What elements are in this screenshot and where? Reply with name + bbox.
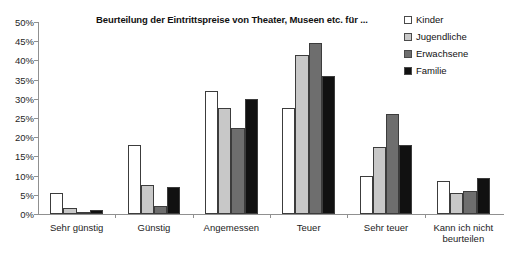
- plot-area: [38, 22, 502, 214]
- bar: [167, 187, 180, 214]
- bar: [245, 99, 258, 214]
- bar: [90, 210, 103, 214]
- bar: [141, 185, 154, 214]
- y-axis-tick-mark: [34, 214, 38, 215]
- x-axis-category-label: Günstig: [115, 222, 192, 233]
- y-axis-tick-label: 0%: [0, 209, 34, 220]
- bar: [463, 191, 476, 214]
- bar: [360, 176, 373, 214]
- x-axis-category-label: Sehr teuer: [347, 222, 424, 233]
- y-axis-tick-label: 25%: [0, 113, 34, 124]
- bar: [128, 145, 141, 214]
- x-axis-separator-tick: [270, 214, 271, 218]
- bar: [50, 193, 63, 214]
- y-axis-tick-label: 50%: [0, 17, 34, 28]
- x-axis-category-label: Angemessen: [193, 222, 270, 233]
- x-axis-line: [38, 214, 504, 215]
- x-axis-separator-tick: [193, 214, 194, 218]
- bar: [309, 43, 322, 214]
- bar: [386, 114, 399, 214]
- x-axis-separator-tick: [425, 214, 426, 218]
- y-axis-tick-label: 20%: [0, 132, 34, 143]
- bar: [282, 108, 295, 214]
- bar: [77, 212, 90, 214]
- x-axis-separator-tick: [347, 214, 348, 218]
- bar: [295, 55, 308, 214]
- y-axis-tick-label: 5%: [0, 189, 34, 200]
- bar: [231, 128, 244, 214]
- bar: [218, 108, 231, 214]
- y-axis-tick-label: 10%: [0, 170, 34, 181]
- bar-chart: Beurteilung der Eintrittspreise von Thea…: [0, 0, 511, 253]
- bar: [399, 145, 412, 214]
- y-axis-tick-label: 30%: [0, 93, 34, 104]
- bar: [322, 76, 335, 214]
- y-axis-tick-label: 35%: [0, 74, 34, 85]
- x-axis-category-label: Sehr günstig: [38, 222, 115, 233]
- bar: [450, 193, 463, 214]
- bar: [477, 178, 490, 214]
- y-axis-tick-label: 15%: [0, 151, 34, 162]
- bar: [154, 206, 167, 214]
- y-axis-tick-label: 40%: [0, 55, 34, 66]
- x-axis-category-label: Teuer: [270, 222, 347, 233]
- bar: [205, 91, 218, 214]
- y-axis-tick-label: 45%: [0, 36, 34, 47]
- x-axis-separator-tick: [115, 214, 116, 218]
- bar: [437, 181, 450, 214]
- bar: [63, 208, 76, 214]
- x-axis-category-label: Kann ich nicht beurteilen: [425, 222, 502, 244]
- bar: [373, 147, 386, 214]
